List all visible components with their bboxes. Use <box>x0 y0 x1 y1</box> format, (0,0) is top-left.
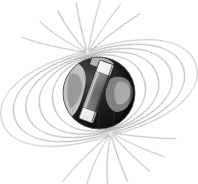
magnetic-field-figure: Earth's magnetic dipole field with inter… <box>0 0 198 184</box>
figure-canvas: Earth's magnetic dipole field with inter… <box>0 0 198 184</box>
